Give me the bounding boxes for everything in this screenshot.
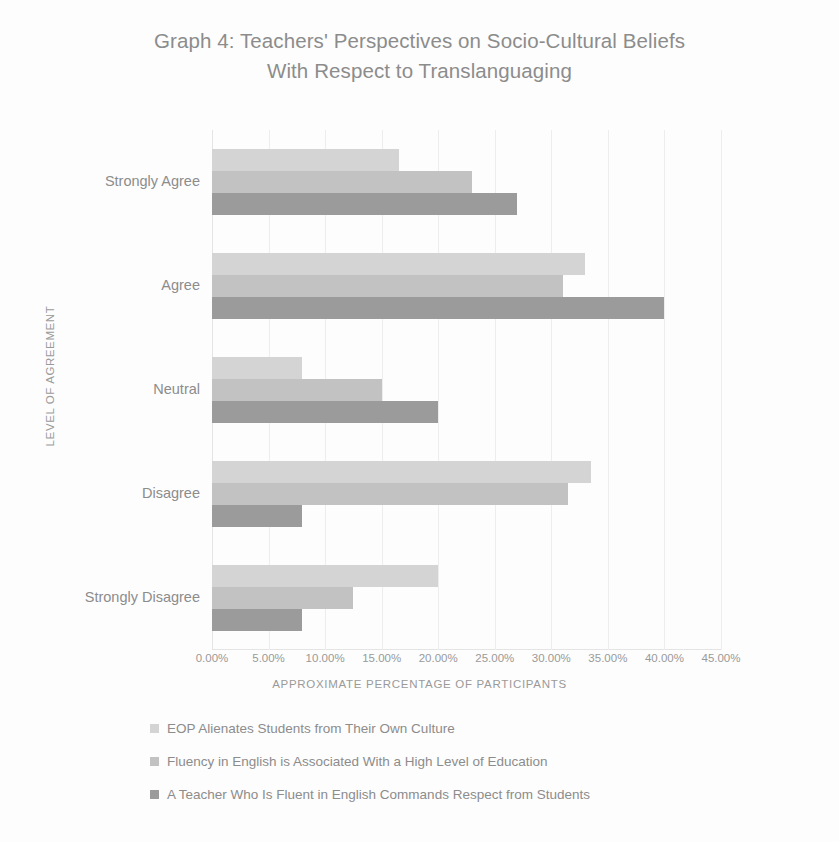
plot-area	[212, 130, 721, 650]
legend-label: Fluency in English is Associated With a …	[167, 754, 547, 769]
x-axis-tick-label: 30.00%	[532, 652, 571, 664]
bar	[212, 171, 472, 193]
y-axis-category-label: Agree	[40, 277, 200, 293]
legend-swatch-icon	[150, 790, 159, 799]
bar	[212, 297, 664, 319]
legend-item: EOP Alienates Students from Their Own Cu…	[150, 712, 770, 745]
x-axis-tick-label: 45.00%	[701, 652, 740, 664]
x-axis-tick-labels: 0.00%5.00%10.00%15.00%20.00%25.00%30.00%…	[212, 652, 721, 674]
y-axis-category-label: Strongly Disagree	[40, 589, 200, 605]
x-axis-line	[212, 649, 721, 650]
legend-item: A Teacher Who Is Fluent in English Comma…	[150, 778, 770, 811]
legend-label: EOP Alienates Students from Their Own Cu…	[167, 721, 455, 736]
bar	[212, 565, 438, 587]
legend-swatch-icon	[150, 724, 159, 733]
bar	[212, 587, 353, 609]
legend-swatch-icon	[150, 757, 159, 766]
x-axis-tick-label: 0.00%	[196, 652, 229, 664]
x-axis-tick-label: 15.00%	[362, 652, 401, 664]
bar	[212, 461, 591, 483]
chart-page: Graph 4: Teachers' Perspectives on Socio…	[0, 0, 839, 842]
bar	[212, 357, 302, 379]
bar	[212, 483, 568, 505]
x-axis-title: APPROXIMATE PERCENTAGE OF PARTICIPANTS	[0, 678, 839, 690]
bar-group	[212, 565, 721, 631]
bar	[212, 253, 585, 275]
legend-label: A Teacher Who Is Fluent in English Comma…	[167, 787, 590, 802]
chart-legend: EOP Alienates Students from Their Own Cu…	[150, 712, 770, 811]
bar	[212, 379, 382, 401]
gridline	[721, 130, 722, 650]
x-axis-tick-label: 20.00%	[419, 652, 458, 664]
x-axis-tick-label: 10.00%	[306, 652, 345, 664]
x-axis-tick-label: 5.00%	[252, 652, 285, 664]
y-axis-category-labels: Strongly AgreeAgreeNeutralDisagreeStrong…	[46, 130, 206, 650]
bar	[212, 505, 302, 527]
x-axis-tick-label: 35.00%	[588, 652, 627, 664]
legend-item: Fluency in English is Associated With a …	[150, 745, 770, 778]
bar-group	[212, 253, 721, 319]
bar	[212, 275, 563, 297]
bar-group	[212, 357, 721, 423]
bar-group	[212, 149, 721, 215]
y-axis-category-label: Neutral	[40, 381, 200, 397]
bar	[212, 193, 517, 215]
y-axis-category-label: Strongly Agree	[40, 173, 200, 189]
x-axis-tick-label: 40.00%	[645, 652, 684, 664]
bar	[212, 609, 302, 631]
plot-wrapper: LEVEL OF AGREEMENT Strongly AgreeAgreeNe…	[0, 0, 839, 842]
bar	[212, 149, 399, 171]
y-axis-category-label: Disagree	[40, 485, 200, 501]
bar	[212, 401, 438, 423]
x-axis-tick-label: 25.00%	[475, 652, 514, 664]
bar-group	[212, 461, 721, 527]
